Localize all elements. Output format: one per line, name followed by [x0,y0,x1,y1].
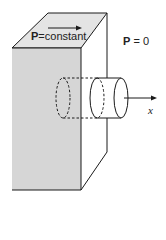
x-axis-label: x [148,104,153,116]
cylinder [90,78,128,118]
x-axis-arrow-icon [124,96,157,101]
slab-front-face-fill [12,48,81,190]
flux-zero-label: P = 0 [123,35,149,47]
flux-constant-label: P=constant [31,30,86,42]
